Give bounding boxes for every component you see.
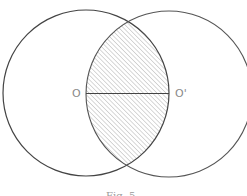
two-circles-diagram: O O' Fig. 5: [0, 0, 247, 196]
figure-caption: Fig. 5: [106, 190, 135, 196]
label-center-o: O: [72, 87, 81, 100]
label-center-o-prime: O': [175, 87, 187, 100]
